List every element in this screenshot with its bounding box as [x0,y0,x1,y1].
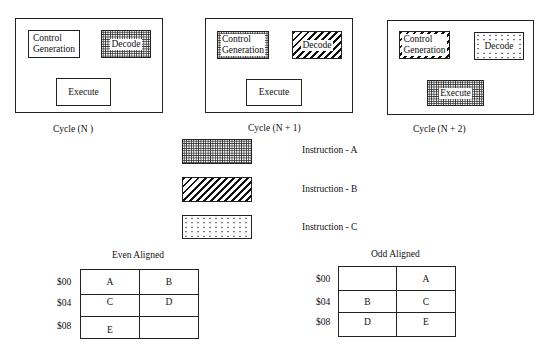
decode-label: Decode [301,40,332,51]
control-line2: Generation [222,45,264,55]
cell: A [397,267,456,291]
control-line1: Control [403,34,432,44]
legend-label-instruction-a: Instruction - A [302,145,357,155]
even-aligned-table: A B C D E [80,269,199,339]
legend-swatch-instruction-b [182,177,252,202]
cell: C [397,291,456,313]
cycle-n-decode: Decode [101,30,151,58]
cell [339,267,397,291]
cell: D [339,313,397,337]
cycle-n-caption: Cycle (N ) [53,124,93,134]
table-row: C D [81,295,199,317]
table-row: E [81,317,199,339]
cell: E [81,317,140,339]
cycle-n1-decode: Decode [292,31,342,59]
odd-aligned-table: A B C D E [338,266,456,337]
odd-aligned-title: Odd Aligned [371,249,420,259]
table-row: A [339,267,456,291]
odd-addr-08: $08 [316,317,330,327]
cell: D [140,295,199,317]
cell: B [140,270,199,295]
table-row: A B [81,270,199,295]
even-aligned-title: Even Aligned [112,250,164,260]
execute-label: Execute [67,87,100,98]
cycle-n1-control-generation: ControlGeneration [217,31,269,59]
cell [140,317,199,339]
control-line1: Control [222,34,251,44]
cell: B [339,291,397,313]
cycle-n1-caption: Cycle (N + 1) [248,123,301,133]
even-addr-04: $04 [57,298,71,308]
even-addr-00: $00 [57,277,71,287]
cycle-n2-caption: Cycle (N + 2) [413,124,466,134]
table-row: D E [339,313,456,337]
legend-swatch-instruction-c [182,215,252,239]
cell: C [81,295,140,317]
cycle-n-execute: Execute [56,78,111,106]
execute-label: Execute [258,87,291,98]
control-line2: Generation [33,44,75,54]
odd-addr-04: $04 [316,297,330,307]
cycle-n-control-generation: ControlGeneration [28,30,80,58]
odd-addr-00: $00 [316,274,330,284]
control-line2: Generation [403,45,445,55]
legend-label-instruction-c: Instruction - C [302,222,357,232]
cycle-n1-execute: Execute [246,79,302,106]
decode-label: Decode [110,39,141,50]
legend-swatch-instruction-a [182,139,252,164]
cycle-n2-execute: Execute [427,80,484,106]
execute-label: Execute [439,88,472,99]
cycle-n2-control-generation: ControlGeneration [399,31,450,59]
decode-label: Decode [483,41,514,52]
even-addr-08: $08 [57,321,71,331]
table-row: B C [339,291,456,313]
control-line1: Control [33,33,62,43]
cell: A [81,270,140,295]
cell: E [397,313,456,337]
legend-label-instruction-b: Instruction - B [302,184,357,194]
cycle-n2-decode: Decode [474,32,524,60]
